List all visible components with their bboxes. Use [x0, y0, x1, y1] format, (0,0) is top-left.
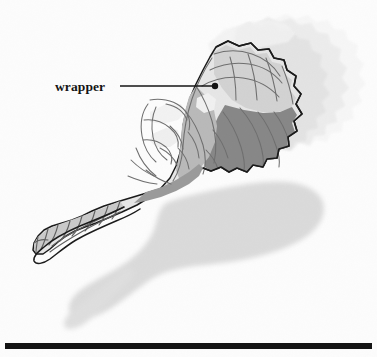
callout-dot	[212, 83, 218, 89]
callout-label-wrapper: wrapper	[55, 79, 105, 94]
bottom-rule	[5, 343, 372, 349]
figure-illustration: wrapper	[0, 0, 377, 357]
wrapper-diagram-svg: wrapper	[0, 0, 377, 357]
paper-grain	[0, 0, 377, 357]
